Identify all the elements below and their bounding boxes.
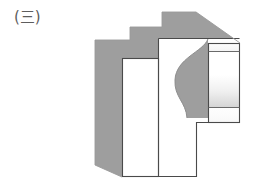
- front-left-panel-group: [123, 59, 159, 177]
- right-boss-lower-band: [209, 108, 240, 123]
- right-boss-middle-band: [209, 52, 240, 108]
- technical-drawing-canvas: [0, 0, 267, 187]
- figure-container: (三): [0, 0, 267, 187]
- right-boss-group: [209, 44, 240, 123]
- front-left-panel-face: [123, 59, 159, 177]
- right-boss-upper-band: [209, 44, 240, 52]
